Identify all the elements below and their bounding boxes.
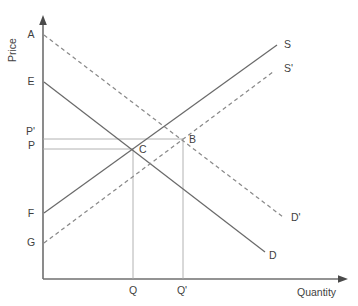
supply-curve-s [44, 45, 277, 213]
intercept-label-e: E [27, 75, 34, 87]
curve-label-d-prime: D' [291, 211, 301, 223]
quantity-label-q-prime: Q' [177, 284, 187, 296]
curve-label-s: S [284, 38, 291, 50]
guide-lines-group [43, 139, 183, 279]
demand-curve-d [44, 82, 265, 252]
curve-label-d: D [269, 249, 277, 261]
x-axis-label-quantity: Quantity [297, 286, 337, 298]
price-label-p: P [28, 139, 35, 151]
demand-shift-curve-d-prime [44, 35, 283, 217]
curve-label-s-prime: S' [284, 62, 293, 74]
quantity-label-q: Q [129, 284, 137, 296]
point-label-b: B [189, 133, 196, 145]
y-axis-arrow-icon [39, 15, 47, 25]
intercept-label-f: F [28, 207, 34, 219]
supply-demand-chart: Price Quantity A E F G P' P Q Q' S S' D'… [0, 0, 358, 306]
intercept-label-g: G [27, 236, 35, 248]
caption-clipped-strip [0, 300, 358, 306]
x-axis-arrow-icon [338, 275, 348, 283]
price-label-p-prime: P' [26, 125, 35, 137]
supply-shift-curve-s-prime [44, 72, 273, 243]
point-label-c: C [139, 143, 147, 155]
curves-group [44, 35, 283, 252]
y-axis-label-price: Price [6, 38, 18, 62]
intercept-label-a: A [27, 28, 34, 40]
labels-group: Price Quantity A E F G P' P Q Q' S S' D'… [6, 28, 337, 298]
supply-demand-diagram: Price Quantity A E F G P' P Q Q' S S' D'… [0, 0, 358, 306]
